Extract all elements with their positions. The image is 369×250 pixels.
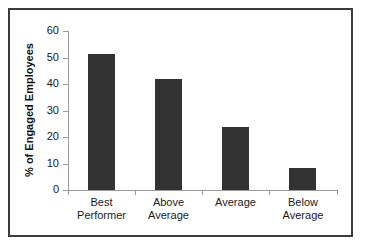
x-label-above-average-line1: Above: [135, 196, 202, 209]
y-tick-60: 60: [0, 31, 68, 32]
y-tick-label-10: 10: [37, 158, 59, 169]
x-label-below-average-line2: Average: [269, 209, 337, 222]
y-tick-label-0: 0: [37, 184, 59, 195]
x-tick-3: [269, 190, 270, 195]
x-label-above-average: Above Average: [135, 196, 202, 222]
x-label-above-average-line2: Average: [135, 209, 202, 222]
y-tick-50: 50: [0, 58, 68, 59]
y-tick-label-30: 30: [37, 105, 59, 116]
y-tick-label-20: 20: [37, 131, 59, 142]
x-tick-0: [68, 190, 69, 195]
y-axis-line: [68, 31, 69, 191]
y-tick-20: 20: [0, 137, 68, 138]
x-label-best-performer-line2: Performer: [68, 209, 135, 222]
x-tick-1: [135, 190, 136, 195]
y-tick-label-60: 60: [37, 25, 59, 36]
x-label-average-line1: Average: [202, 196, 269, 209]
bar-below-average: [289, 168, 316, 190]
y-tick-40: 40: [0, 84, 68, 85]
chart-figure: % of Engaged Employees 60 50 40 30 20 10: [0, 0, 369, 250]
bar-chart-plot-area: % of Engaged Employees 60 50 40 30 20 10: [0, 0, 369, 250]
x-tick-4: [337, 190, 338, 195]
bar-best-performer: [88, 54, 115, 190]
bar-average: [222, 127, 249, 190]
x-label-below-average: Below Average: [269, 196, 337, 222]
x-label-best-performer: Best Performer: [68, 196, 135, 222]
x-label-best-performer-line1: Best: [68, 196, 135, 209]
y-tick-10: 10: [0, 164, 68, 165]
y-tick-label-40: 40: [37, 78, 59, 89]
bar-above-average: [155, 79, 182, 190]
y-tick-0: 0: [0, 190, 68, 191]
x-tick-2: [202, 190, 203, 195]
x-label-below-average-line1: Below: [269, 196, 337, 209]
y-tick-30: 30: [0, 111, 68, 112]
x-label-average: Average: [202, 196, 269, 209]
x-axis-line: [68, 190, 338, 191]
y-tick-label-50: 50: [37, 52, 59, 63]
